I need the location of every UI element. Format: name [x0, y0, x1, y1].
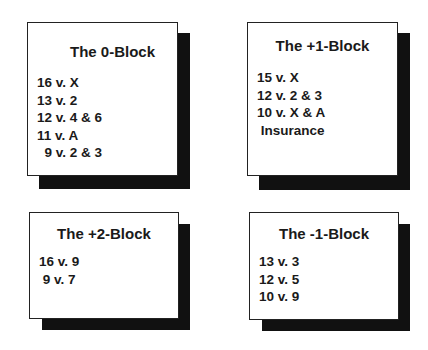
- block-minus-1-line: 10 v. 9: [259, 288, 299, 306]
- block-0-line: 13 v. 2: [37, 92, 102, 110]
- block-0-lines: 16 v. X 13 v. 2 12 v. 4 & 6 11 v. A 9 v.…: [37, 74, 102, 162]
- block-minus-1-line: 12 v. 5: [259, 271, 299, 289]
- block-minus-1-title: The -1-Block: [250, 225, 398, 242]
- block-plus-1-lines: 15 v. X 12 v. 2 & 3 10 v. X & A Insuranc…: [257, 69, 325, 139]
- block-plus-1-line: 12 v. 2 & 3: [257, 87, 325, 105]
- block-0-line: 16 v. X: [37, 74, 102, 92]
- block-plus-1-line: 10 v. X & A: [257, 104, 325, 122]
- block-0-card: The 0-Block 16 v. X 13 v. 2 12 v. 4 & 6 …: [27, 22, 178, 176]
- block-plus-2-lines: 16 v. 9 9 v. 7: [39, 253, 79, 288]
- block-0-title: The 0-Block: [48, 43, 177, 60]
- block-minus-1-card: The -1-Block 13 v. 3 12 v. 5 10 v. 9: [249, 212, 399, 320]
- block-plus-1-title: The +1-Block: [248, 37, 397, 54]
- block-0-line: 9 v. 2 & 3: [37, 144, 102, 162]
- block-plus-1-line: Insurance: [257, 122, 325, 140]
- block-plus-2-card: The +2-Block 16 v. 9 9 v. 7: [29, 212, 179, 319]
- block-plus-1-card: The +1-Block 15 v. X 12 v. 2 & 3 10 v. X…: [247, 22, 398, 176]
- block-minus-1-line: 13 v. 3: [259, 253, 299, 271]
- block-plus-2-line: 16 v. 9: [39, 253, 79, 271]
- block-plus-2-line: 9 v. 7: [39, 271, 79, 289]
- block-plus-2-title: The +2-Block: [30, 225, 178, 242]
- block-0-line: 12 v. 4 & 6: [37, 109, 102, 127]
- block-0-line: 11 v. A: [37, 127, 102, 145]
- block-minus-1-lines: 13 v. 3 12 v. 5 10 v. 9: [259, 253, 299, 306]
- block-plus-1-line: 15 v. X: [257, 69, 325, 87]
